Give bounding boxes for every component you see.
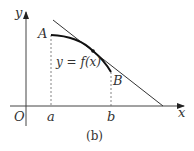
function-tangent-diagram: y x O A B a b y = f(x) (b) (0, 0, 194, 151)
tangent-point (91, 49, 95, 53)
y-axis-label: y (15, 6, 22, 19)
tick-a-label: a (47, 110, 55, 123)
curve-label: y = f(x) (56, 56, 101, 68)
origin-label: O (14, 110, 25, 123)
x-axis-label: x (178, 106, 185, 119)
tick-b-label: b (107, 110, 115, 123)
point-a-label: A (38, 27, 47, 40)
point-b-label: B (113, 74, 123, 87)
figure-caption: (b) (86, 130, 103, 142)
